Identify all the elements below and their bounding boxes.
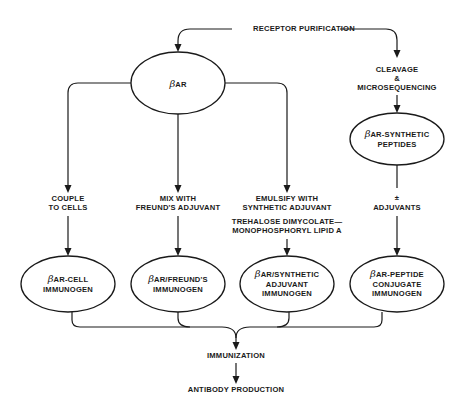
couple-label-line2: TO CELLS [48,203,87,212]
arrow-down-icon [233,376,240,384]
cleavage-label: CLEAVAGE [376,65,419,74]
arrow-down-icon [233,342,240,350]
receptor-purification-label: RECEPTOR PURIFICATION [253,24,355,33]
node-conjugate-line3: IMMUNOGEN [372,289,422,298]
node-peptides-line2: PEPTIDES [377,140,416,149]
adjuvants-label: ADJUVANTS [373,203,421,212]
node-beta-ar-freund-immunogen [131,256,225,312]
flow-diagram: RECEPTOR PURIFICATION βAR CLEAVAGE & MIC… [0,0,470,412]
plus-minus-label: ± [395,193,399,202]
node-conjugate-line2: CONJUGATE [373,280,422,289]
mix-label-line2: FREUND'S ADJUVANT [136,203,221,212]
node-beta-ar-synthetic-peptides [350,113,444,165]
arrow-down-icon [394,248,401,256]
node-freund-line2: IMMUNOGEN [153,285,203,294]
node-conjugate-line1: βAR-PEPTIDE [369,268,424,279]
arrow-down-icon [175,185,182,193]
node-beta-ar-cell-immunogen [21,256,115,312]
connector-bar-to-couple [68,83,131,186]
node-synthetic-line3: IMMUNOGEN [262,289,312,298]
node-peptides-line1: βAR-SYNTHETIC [364,128,430,139]
ampersand-label: & [394,74,400,83]
microsequencing-label: MICROSEQUENCING [357,83,436,92]
merge-line-right-outer [236,312,382,338]
arrow-down-icon [65,185,72,193]
node-synthetic-line2: ADJUVANT [266,280,309,289]
arrow-down-icon [394,105,401,113]
antibody-production-label: ANTIBODY PRODUCTION [188,385,284,394]
emulsify-label-line4: MONOPHOSPHORYL LIPID A [232,226,342,235]
node-beta-ar-label: βAR [168,78,186,89]
merge-line-left-inner [178,312,190,327]
connector-purification-to-bar [178,29,232,46]
merge-line-right-inner [277,312,289,327]
node-freund-line1: βAR/FREUND'S [147,273,208,284]
emulsify-label-line2: SYNTHETIC ADJUVANT [242,203,331,212]
couple-label-line1: COUPLE [52,194,85,203]
emulsify-label-line3: TREHALOSE DIMYCOLATE— [232,217,343,226]
emulsify-label-line1: EMULSIFY WITH [256,194,318,203]
arrow-down-icon [284,248,291,256]
node-cell-line2: IMMUNOGEN [43,285,93,294]
arrow-down-icon [175,248,182,256]
mix-label-line1: MIX WITH [160,194,197,203]
arrow-down-icon [175,44,182,52]
immunization-label: IMMUNIZATION [207,351,265,360]
arrow-down-icon [394,50,401,58]
node-cell-line1: βAR-CELL [47,273,89,284]
node-synthetic-line1: βAR/SYNTHETIC [254,268,320,279]
arrow-down-icon [284,185,291,193]
connector-bar-to-emulsify [225,83,287,186]
merge-line-left-outer [72,312,236,338]
arrow-down-icon [65,248,72,256]
